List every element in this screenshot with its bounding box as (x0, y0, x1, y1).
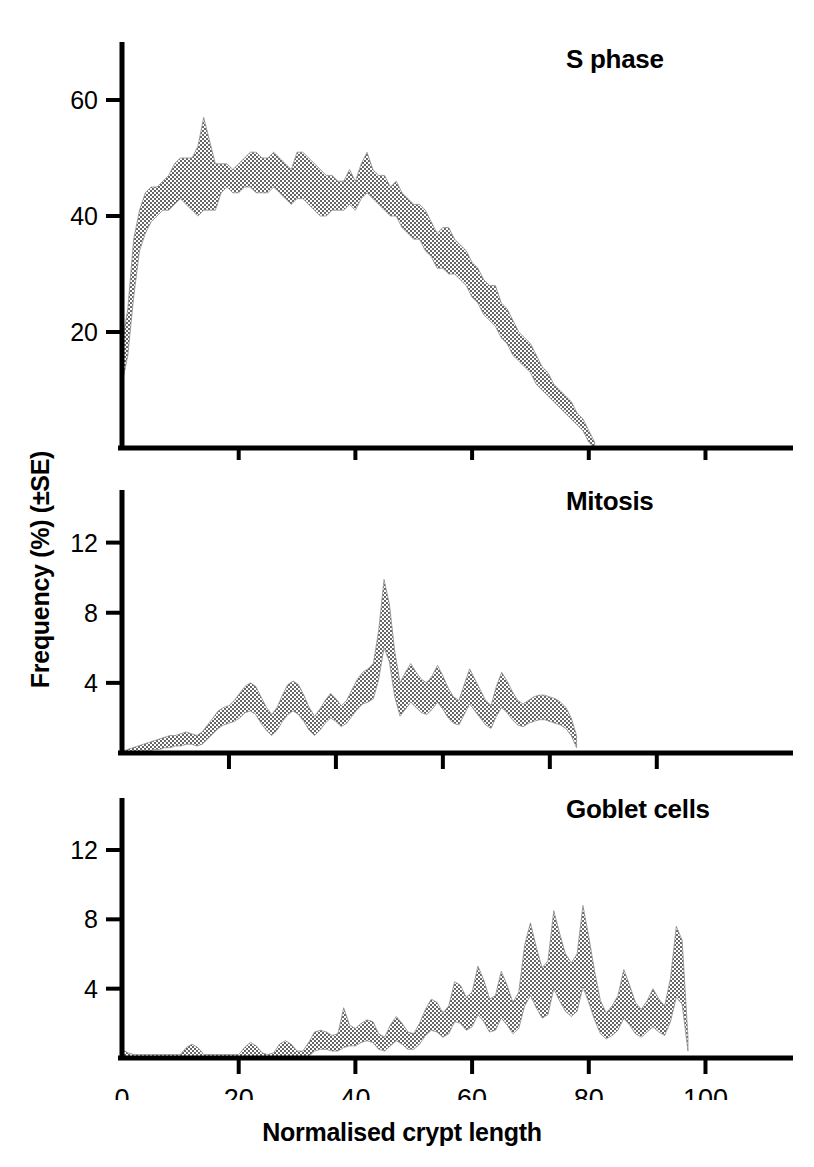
se-band (122, 579, 577, 753)
y-tick-label: 12 (70, 529, 98, 557)
y-tick-label: 8 (84, 905, 98, 933)
panel-s-phase: S phase 204060 (0, 0, 814, 460)
y-tick-label: 8 (84, 599, 98, 627)
y-tick-label: 4 (84, 975, 98, 1003)
y-tick-label: 40 (70, 202, 98, 230)
x-tick-label: 60 (457, 1084, 487, 1100)
plot-mitosis: 4812 (0, 460, 814, 770)
x-tick-label: 80 (574, 1084, 604, 1100)
x-tick-label: 20 (224, 1084, 254, 1100)
se-band (122, 905, 688, 1058)
panel-goblet-cells: Goblet cells 4812020406080100 (0, 770, 814, 1100)
y-tick-label: 60 (70, 86, 98, 114)
x-tick-label: 40 (340, 1084, 370, 1100)
figure-root: Frequency (%) (±SE) S phase 204060 Mitos… (0, 0, 814, 1167)
x-tick-label: 0 (114, 1084, 129, 1100)
y-tick-label: 20 (70, 318, 98, 346)
panel-mitosis: Mitosis 4812 (0, 460, 814, 770)
x-axis-label: Normalised crypt length (122, 1118, 682, 1147)
y-tick-label: 12 (70, 836, 98, 864)
se-band (122, 117, 595, 448)
y-tick-label: 4 (84, 669, 98, 697)
plot-s-phase: 204060 (0, 0, 814, 460)
plot-goblet-cells: 4812020406080100 (0, 770, 814, 1100)
x-tick-label: 100 (683, 1084, 728, 1100)
